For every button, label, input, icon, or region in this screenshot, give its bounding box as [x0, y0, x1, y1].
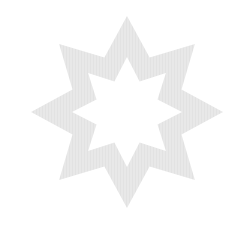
eight-pointed-star-icon	[0, 0, 241, 233]
star-outline-shape	[31, 16, 223, 208]
canvas	[0, 0, 241, 233]
